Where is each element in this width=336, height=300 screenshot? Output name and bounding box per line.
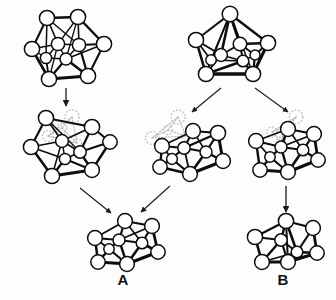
- cluster-node: [60, 53, 72, 65]
- cluster-node: [44, 168, 59, 183]
- cluster-node: [70, 9, 85, 24]
- cluster-node: [237, 55, 249, 67]
- cluster-node: [74, 146, 86, 158]
- cluster-node: [56, 135, 69, 148]
- cluster-transformation-diagram: AB: [0, 0, 336, 300]
- cluster-node: [88, 231, 103, 246]
- cluster-node: [297, 144, 309, 156]
- cluster-node: [311, 153, 325, 167]
- cluster-node: [310, 246, 324, 260]
- cluster-node: [24, 41, 39, 56]
- cluster-node: [247, 229, 262, 244]
- cluster-node: [51, 37, 64, 50]
- cluster-node: [281, 165, 296, 180]
- cluster-node: [307, 127, 322, 142]
- cluster-node: [183, 167, 198, 182]
- cluster-node: [23, 139, 38, 154]
- cluster-node: [275, 234, 287, 246]
- cluster-node: [104, 244, 114, 254]
- cluster-node: [233, 37, 247, 51]
- cluster-node: [145, 219, 160, 234]
- cluster-node: [41, 71, 56, 86]
- cluster-node: [72, 38, 85, 51]
- label-a: A: [118, 271, 129, 288]
- cluster-node: [188, 32, 203, 47]
- cluster-node: [278, 213, 293, 228]
- cluster-node: [216, 154, 231, 169]
- cluster-node: [96, 36, 111, 51]
- cluster-node: [40, 52, 51, 63]
- cluster-node: [291, 246, 303, 258]
- cluster-node: [260, 35, 275, 50]
- cluster-node: [306, 221, 321, 236]
- cluster-node: [103, 135, 117, 149]
- cluster-node: [80, 68, 95, 83]
- cluster-node: [245, 66, 260, 81]
- cluster-node: [91, 255, 105, 269]
- cluster-node: [38, 110, 53, 125]
- cluster-node: [186, 124, 201, 139]
- cluster-node: [113, 234, 125, 246]
- cluster-node: [206, 55, 216, 65]
- cluster-node: [200, 146, 212, 158]
- cluster-node: [250, 50, 260, 60]
- cluster-node: [120, 257, 135, 272]
- cluster-node: [39, 10, 54, 25]
- cluster-node: [118, 214, 133, 229]
- cluster-node: [222, 6, 238, 22]
- cluster-node: [281, 122, 296, 137]
- cluster-node: [198, 66, 213, 81]
- cluster-node: [136, 237, 148, 249]
- cluster-node: [210, 125, 225, 140]
- cluster-node: [155, 139, 170, 154]
- cluster-node: [85, 163, 100, 178]
- cluster-node: [84, 119, 99, 134]
- cluster-node: [265, 152, 275, 162]
- diagram-canvas: AB: [0, 0, 336, 300]
- cluster-node: [253, 163, 267, 177]
- cluster-node: [59, 153, 70, 164]
- cluster-node: [178, 142, 190, 154]
- cluster-node: [151, 245, 165, 259]
- cluster-node: [153, 160, 167, 174]
- label-b: B: [278, 271, 289, 288]
- cluster-node: [275, 141, 287, 153]
- cluster-node: [249, 134, 264, 149]
- cluster-node: [167, 154, 178, 165]
- cluster-node: [255, 255, 270, 270]
